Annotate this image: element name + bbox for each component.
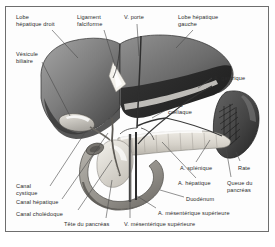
label-rate: Rate xyxy=(238,165,250,172)
pancreas-body-tail xyxy=(118,131,231,155)
label-tronc-coeliaque: Tronc cœliaque xyxy=(168,102,192,115)
label-v-porte: V. porte xyxy=(124,14,144,21)
vessel-arcade-1 xyxy=(120,128,137,134)
label-lobe-hepatique-droit: Lobe hépatique droit xyxy=(16,14,55,27)
label-duodenum: Duodénum xyxy=(186,196,214,203)
label-a-splenique: A. splénique xyxy=(180,165,212,172)
label-v-mesenterique-superieure: V. mésentérique supérieure xyxy=(124,221,195,228)
label-vesicule-biliaire: Vésicule biliaire xyxy=(16,51,38,64)
label-lobe-hepatique-gauche: Lobe hépatique gauche xyxy=(178,14,218,27)
label-tete-du-pancreas: Tête du pancréas xyxy=(64,221,109,228)
label-ligament-falciforme: Ligament falciforme xyxy=(77,14,102,27)
hepatic-duct xyxy=(112,118,113,140)
label-canal-choledoque: Canal cholédoque xyxy=(16,211,63,218)
label-a-hepatique: A. hépatique xyxy=(178,180,211,187)
anatomy-illustration xyxy=(0,0,275,247)
label-canal-cystique: Canal cystique xyxy=(16,183,37,196)
label-queue-du-pancreas: Queue du pancréas xyxy=(227,180,252,193)
anatomy-figure: Lobe hépatique droit Ligament falciforme… xyxy=(0,0,275,247)
label-canal-hepatique: Canal hépatique xyxy=(16,199,58,206)
label-a-gastrique: A. gastrique xyxy=(214,75,245,82)
leader-duodenum xyxy=(160,190,184,197)
label-a-mesenterique-superieure: A. mésentérique supérieure xyxy=(158,210,230,217)
